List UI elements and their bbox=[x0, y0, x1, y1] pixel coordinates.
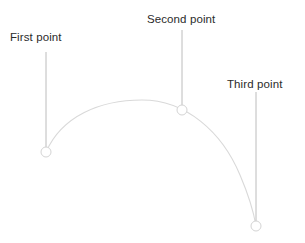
label-first-point: First point bbox=[10, 31, 62, 44]
arc-curve bbox=[46, 100, 256, 226]
point-marker-third[interactable] bbox=[251, 221, 261, 231]
point-marker-second[interactable] bbox=[177, 105, 187, 115]
point-marker-first[interactable] bbox=[41, 147, 51, 157]
label-second-point: Second point bbox=[147, 13, 215, 26]
label-third-point: Third point bbox=[227, 78, 282, 91]
